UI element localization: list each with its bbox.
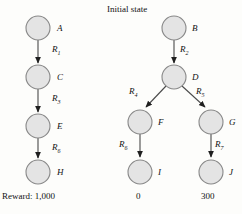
edge-label-R6-left: R6: [52, 143, 61, 154]
node-label-B: B: [192, 24, 198, 33]
node-label-D: D: [192, 73, 199, 82]
node-label-J: J: [229, 168, 233, 177]
reward-label: Reward: 1,000: [2, 192, 55, 201]
node-F: [128, 110, 152, 134]
edge-label-R1: R1: [52, 45, 61, 56]
node-J: [199, 160, 223, 184]
right-tree-edges: [140, 40, 211, 157]
node-label-H: H: [57, 168, 64, 177]
node-label-E: E: [57, 122, 63, 131]
leaf-value-J: 300: [201, 192, 215, 201]
node-label-F: F: [158, 118, 164, 127]
right-tree-nodes: [128, 16, 223, 184]
edge-D-to-F: [146, 86, 166, 107]
edge-label-R5: R5: [196, 87, 205, 98]
edge-label-R4: R4: [129, 87, 138, 98]
node-label-A: A: [57, 24, 63, 33]
figure-canvas: Initial state: [0, 0, 242, 214]
edge-label-R2: R2: [180, 45, 189, 56]
node-G: [199, 110, 223, 134]
node-B: [162, 16, 186, 40]
node-A: [26, 16, 50, 40]
node-H: [26, 160, 50, 184]
node-I: [128, 160, 152, 184]
edge-label-R3: R3: [52, 94, 61, 105]
edge-label-R7: R7: [215, 140, 224, 151]
edge-label-R6-right: R6: [119, 140, 128, 151]
node-E: [26, 114, 50, 138]
state-transition-diagram: [0, 0, 242, 214]
node-label-G: G: [229, 118, 236, 127]
node-label-I: I: [158, 168, 161, 177]
node-D: [162, 65, 186, 89]
node-label-C: C: [57, 73, 63, 82]
node-C: [26, 65, 50, 89]
leaf-value-I: 0: [136, 192, 141, 201]
